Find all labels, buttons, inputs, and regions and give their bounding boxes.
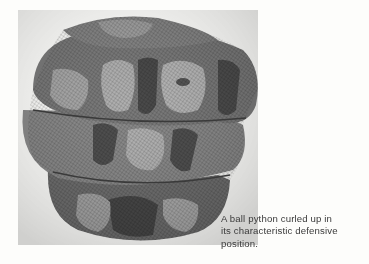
caption-line-1: A ball python curled up in — [221, 213, 369, 225]
caption-line-2: its characteristic defensive — [221, 225, 369, 237]
caption-line-3: position. — [221, 238, 369, 250]
ball-python-photo — [18, 10, 258, 245]
figure-caption: A ball python curled up in its character… — [221, 213, 369, 250]
